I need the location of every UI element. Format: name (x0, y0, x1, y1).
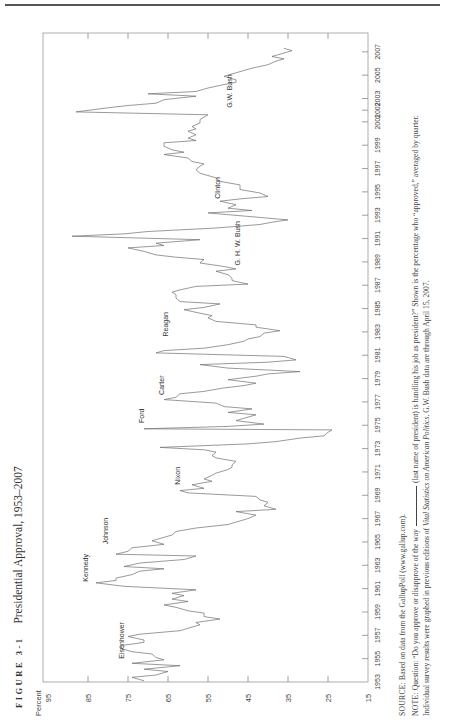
president-label: Clinton (214, 177, 221, 199)
question-blank (415, 486, 417, 526)
year-tick-label: 1979 (374, 371, 381, 387)
plot-frame (43, 33, 368, 682)
year-tick-label: 1997 (374, 161, 381, 177)
source-line: SOURCE: Based on data from the GallupPol… (398, 514, 407, 716)
year-tick-label: 1967 (374, 511, 381, 527)
year-tick-label: 1971 (374, 464, 381, 480)
note-text-2: (last name of president) is handling his… (411, 115, 420, 483)
year-tick-label: 1993 (374, 207, 381, 223)
note-line-2: Individual survey results were graphed i… (422, 280, 431, 716)
year-tick-label: 1973 (374, 441, 381, 457)
percent-tick-label: 55 (204, 694, 213, 702)
year-tick-label: 2005 (374, 67, 381, 83)
percent-tick-label: 45 (244, 694, 253, 702)
year-tick-label: 1957 (374, 627, 381, 643)
note-text-1: Question: “Do you approve or disapprove … (411, 529, 420, 690)
year-tick-label: 1953 (374, 674, 381, 690)
source-text: Based on data from the GallupPoll (www.g… (398, 514, 407, 680)
president-label: G.W. Bush (226, 74, 233, 108)
year-tick-label: 1963 (374, 557, 381, 573)
note-line2-italic: Vital Statistics on American Politics (422, 417, 431, 526)
year-tick-label: 2007 (374, 44, 381, 60)
year-axis: 1953195519571959196119631965196719691971… (362, 44, 381, 690)
approval-series (72, 48, 332, 681)
president-label: Eisenhower (118, 621, 125, 658)
president-label: Ford (138, 408, 145, 423)
year-tick-label: 1995 (374, 184, 381, 200)
figure-title-block: FIGURE 3-1 Presidential Approval, 1953–2… (12, 466, 24, 708)
percent-tick-label: 25 (324, 694, 333, 702)
year-tick-label: 1961 (374, 581, 381, 597)
year-tick-label: 1983 (374, 324, 381, 340)
president-label: Kennedy (82, 554, 90, 582)
percent-axis: 958575655545352515 (44, 33, 373, 702)
figure-title: Presidential Approval, 1953–2007 (12, 466, 24, 623)
percent-tick-label: 35 (284, 694, 293, 702)
year-tick-label: 1959 (374, 604, 381, 620)
year-tick-label: 1989 (374, 254, 381, 270)
year-tick-label: 1977 (374, 394, 381, 410)
year-tick-label: 2003 (374, 91, 381, 107)
year-tick-label: 1975 (374, 417, 381, 433)
president-label: Johnson (102, 518, 109, 545)
approval-line (72, 48, 332, 681)
note-line2-a: Individual survey results were graphed i… (422, 526, 431, 716)
percent-tick-label: 95 (44, 694, 53, 702)
year-tick-label: 1985 (374, 301, 381, 317)
y-axis-label: Percent (34, 690, 43, 716)
year-tick-label: 1955 (374, 651, 381, 667)
president-label: Carter (158, 375, 165, 395)
percent-tick-label: 75 (124, 694, 133, 702)
president-label: Reagan (162, 312, 170, 337)
note-label: NOTE: (411, 692, 420, 716)
percent-tick-label: 85 (84, 694, 93, 702)
percent-tick-label: 15 (364, 694, 373, 702)
year-tick-label: 1987 (374, 277, 381, 293)
year-tick-label: 1999 (374, 137, 381, 153)
approval-line-chart: 958575655545352515 195319551957195919611… (0, 0, 454, 724)
president-label: Nixon (174, 467, 181, 485)
year-tick-label: 1981 (374, 347, 381, 363)
note-line-1: NOTE: Question: “Do you approve or disap… (411, 115, 420, 716)
year-tick-label: 1965 (374, 534, 381, 550)
year-tick-label: 1969 (374, 487, 381, 503)
figure-label: FIGURE 3-1 (14, 636, 24, 708)
note-line2-b: . G.W. Bush data are through April 15, 2… (422, 280, 431, 416)
source-label: SOURCE: (398, 682, 407, 716)
percent-tick-label: 65 (164, 694, 173, 702)
president-label: G. H. W. Bush (234, 221, 241, 265)
year-tick-label: 1991 (374, 231, 381, 247)
